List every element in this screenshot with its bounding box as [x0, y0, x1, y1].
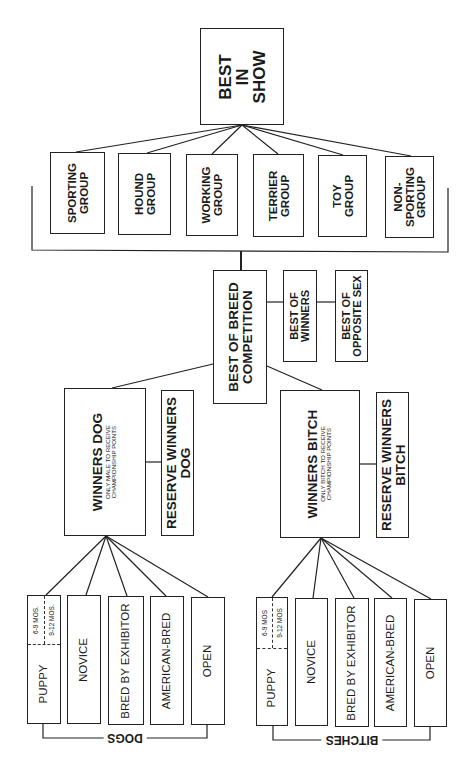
bitches-bracket: BITCHES [273, 733, 430, 747]
group-label: GROUP [77, 172, 89, 214]
group-label: GROUP [144, 173, 156, 215]
reserve-winners-dog-box: RESERVE WINNERSDOG [161, 390, 194, 536]
bitch-class-bred-by-exhibitor: BRED BY EXHIBITOR [335, 598, 369, 727]
winners-dog-note: CHAMPIONSHIP POINTS [112, 413, 119, 511]
group-box-working: WORKINGGROUP [186, 154, 238, 236]
best-of-breed-box: BEST OF BREEDCOMPETITION [213, 270, 267, 404]
best-of-winners-box: BEST OFWINNERS [283, 270, 317, 362]
puppy-divider [28, 644, 60, 645]
class-label: OPEN [424, 647, 436, 680]
class-label: AMERICAN-BRED [384, 614, 396, 710]
best-in-show-box: BEST IN SHOW [200, 28, 284, 125]
bitch-class-open: OPEN [414, 599, 447, 727]
group-label: GROUP [211, 174, 223, 216]
group-label: TERRIER [266, 170, 278, 220]
group-box-sporting: SPORTINGGROUP [50, 152, 105, 234]
group-label: SPORTING [403, 167, 415, 227]
group-label: NON- [391, 182, 403, 211]
group-label: GROUP [414, 176, 426, 218]
dog-class-open: OPEN [191, 597, 225, 725]
group-label: SPORTING [65, 163, 77, 223]
class-label: PUPPY [37, 665, 49, 704]
best-of-opposite-sex-box: BEST OFOPPOSITE SEX [335, 270, 368, 362]
class-label: OPEN [201, 645, 213, 678]
winners-dog-box: WINNERS DOG ONLY MALE TO RECEIVE CHAMPIO… [64, 388, 146, 536]
puppy-divider [257, 648, 287, 649]
dog-class-american-bred: AMERICAN-BRED [150, 596, 184, 725]
class-label: BRED BY EXHIBITOR [345, 605, 357, 720]
bitch-class-puppy: 6-9 MOS 9-12 MOS PUPPY [256, 597, 288, 726]
class-label: NOVICE [305, 640, 317, 684]
bitches-bracket-label: BITCHES [325, 733, 378, 747]
group-box-non-sporting: NON-SPORTINGGROUP [385, 156, 434, 238]
best-of-opposite-sex-label: OPPOSITE SEX [351, 275, 363, 356]
winners-bitch-note: CHAMPIONSHIP POINTS [327, 410, 334, 519]
best-of-winners-label: WINNERS [299, 290, 311, 342]
best-in-show-label: BEST IN SHOW [217, 50, 268, 103]
best-in-show-line-3: SHOW [250, 50, 269, 103]
group-box-toy: TOYGROUP [318, 155, 367, 237]
best-of-breed-label: COMPETITION [239, 290, 254, 384]
group-label: GROUP [342, 175, 354, 217]
dogs-bracket-label: DOGS [107, 731, 142, 745]
group-label: TOY [330, 184, 342, 207]
reserve-winners-bitch-label: RESERVE WINNERS [378, 399, 393, 531]
group-label: GROUP [278, 174, 290, 216]
reserve-winners-dog-label: RESERVE WINNERS [163, 397, 178, 529]
class-label: NOVICE [77, 637, 89, 681]
best-of-opposite-sex-label: BEST OF [340, 292, 352, 340]
class-label: BRED BY EXHIBITOR [119, 603, 131, 718]
winners-bitch-box: WINNERS BITCH ONLY BITCH TO RECEIVE CHAM… [280, 390, 360, 538]
bitch-class-novice: NOVICE [295, 598, 328, 726]
winners-bitch-title: WINNERS BITCH [305, 410, 320, 519]
puppy-age-9-12: 9-12 MOS. [48, 604, 55, 635]
reserve-winners-bitch-box: RESERVE WINNERSBITCH [376, 392, 409, 538]
bitch-class-american-bred: AMERICAN-BRED [374, 598, 407, 727]
dog-class-bred-by-exhibitor: BRED BY EXHIBITOR [108, 596, 144, 725]
group-label: WORKING [200, 167, 212, 224]
puppy-age-divider [272, 598, 273, 648]
puppy-age-6-9: 6-9 MOS [261, 610, 268, 636]
group-label: HOUND [132, 173, 144, 215]
dog-class-puppy: 6-9 MOS. 9-12 MOS. PUPPY [27, 595, 61, 724]
group-box-terrier: TERRIERGROUP [253, 154, 304, 237]
puppy-age-6-9: 6-9 MOS. [32, 606, 39, 634]
reserve-winners-bitch-label: BITCH [392, 444, 407, 485]
reserve-winners-dog-label: DOG [177, 448, 192, 479]
winners-dog-title: WINNERS DOG [90, 413, 105, 511]
group-box-hound: HOUNDGROUP [118, 153, 171, 235]
dog-show-hierarchy-diagram: BEST IN SHOW SPORTINGGROUP HOUNDGROUP WO… [0, 0, 476, 769]
puppy-age-9-12: 9-12 MOS [276, 608, 283, 638]
class-label: PUPPY [265, 669, 277, 708]
dog-class-novice: NOVICE [67, 595, 101, 724]
class-label: AMERICAN-BRED [160, 612, 172, 708]
dogs-bracket: DOGS [43, 731, 207, 745]
puppy-age-divider [44, 596, 45, 644]
